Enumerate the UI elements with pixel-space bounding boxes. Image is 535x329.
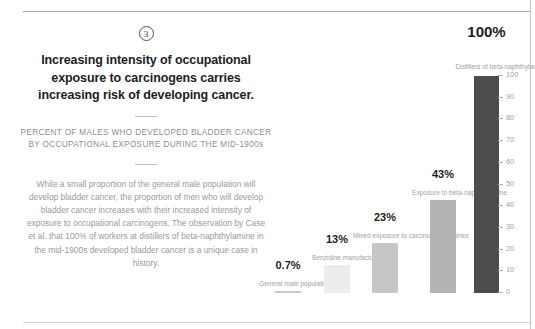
text-column: 3 Increasing intensity of occupational e… — [20, 26, 272, 270]
tick-mark-icon — [498, 118, 503, 119]
tick-mark-icon — [498, 227, 503, 228]
bar-0[interactable] — [275, 291, 301, 293]
y-tick-label-50: 50 — [506, 179, 514, 188]
body-paragraph: While a small proportion of the general … — [20, 178, 272, 270]
tick-mark-icon — [498, 97, 503, 98]
bar-3[interactable] — [430, 200, 456, 293]
bar-2[interactable] — [372, 243, 398, 293]
top-divider-rule — [23, 11, 530, 12]
tick-mark-icon — [498, 292, 503, 293]
tick-mark-icon — [498, 140, 503, 141]
tick-mark-icon — [498, 75, 503, 76]
slide-number-badge: 3 — [139, 26, 154, 41]
bar-group-1: 13% Benzidine manufacture — [324, 73, 350, 293]
bar-caption-3: Exposure to beta-naphthylamine — [412, 189, 474, 197]
divider-dash-upper — [135, 116, 157, 117]
y-tick-label-70: 70 — [506, 135, 514, 144]
y-axis: 100 90 80 70 60 50 40 30 20 10 0 — [498, 76, 530, 293]
bar-caption-2: Mixed exposure to carcinogenic amines — [353, 232, 417, 240]
tick-mark-icon — [498, 270, 503, 271]
tick-mark-icon — [498, 249, 503, 250]
y-tick-label-90: 90 — [506, 92, 514, 101]
bottom-divider-rule — [23, 322, 530, 323]
divider-dash-lower — [135, 164, 157, 165]
bar-value-2: 23% — [374, 211, 396, 223]
bar-1[interactable] — [324, 265, 350, 293]
y-tick-label-100: 100 — [506, 70, 518, 79]
bar-value-4: 100% — [467, 23, 505, 40]
y-tick-label-0: 0 — [506, 287, 510, 296]
bar-value-1: 13% — [326, 233, 348, 245]
y-tick-label-30: 30 — [506, 222, 514, 231]
bar-value-0: 0.7% — [275, 259, 300, 271]
bar-group-3: 43% Exposure to beta-naphthylamine — [430, 73, 456, 293]
page-title: Increasing intensity of occupational exp… — [20, 52, 272, 105]
tick-mark-icon — [498, 184, 503, 185]
bar-4[interactable] — [474, 76, 499, 293]
bar-group-2: 23% Mixed exposure to carcinogenic amine… — [372, 73, 398, 293]
bar-group-4: 100% Distillers of beta-naphthylamine — [474, 43, 499, 293]
y-tick-label-20: 20 — [506, 244, 514, 253]
y-tick-label-10: 10 — [506, 265, 514, 274]
y-tick-label-40: 40 — [506, 200, 514, 209]
right-border-rule — [530, 0, 531, 329]
bar-caption-1: Benzidine manufacture — [312, 254, 362, 262]
chart-subtitle: PERCENT OF MALES WHO DEVELOPED BLADDER C… — [20, 127, 272, 152]
tick-mark-icon — [498, 162, 503, 163]
slide-canvas: 3 Increasing intensity of occupational e… — [0, 0, 535, 329]
bar-caption-0: General male population — [259, 280, 317, 288]
bar-group-0: 0.7% General male population — [275, 73, 301, 293]
plot-area: 0.7% General male population 13% Benzidi… — [262, 20, 530, 320]
bar-chart: 0.7% General male population 13% Benzidi… — [262, 20, 530, 320]
bar-value-3: 43% — [432, 168, 454, 180]
y-tick-label-60: 60 — [506, 157, 514, 166]
y-tick-label-80: 80 — [506, 113, 514, 122]
tick-mark-icon — [498, 205, 503, 206]
